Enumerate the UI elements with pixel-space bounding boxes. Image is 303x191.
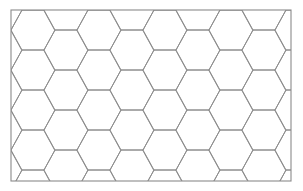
hexagonal-tiling-figure: Honeycomb hexagonal tiling [0,0,303,191]
figure-root: Honeycomb hexagonal tiling [0,0,303,191]
